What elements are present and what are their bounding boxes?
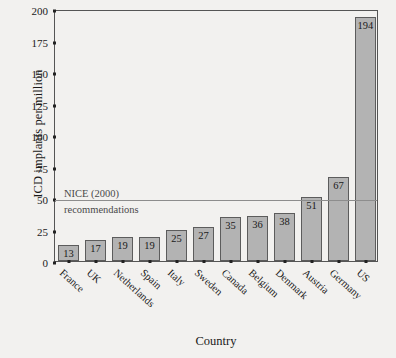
bar-value-label: 194 [356,20,376,31]
x-axis-tick-mark [175,260,178,263]
y-axis-tick-mark [53,167,56,170]
bar-value-label: 67 [329,180,349,191]
nice-recommendation-line: NICE (2000) recommendations [55,200,377,201]
bar: 27 [193,227,215,261]
nice-annotation-line2: recommendations [64,204,139,215]
x-axis-tick-mark [121,260,124,263]
y-axis-tick-mark [53,73,56,76]
x-axis-tick-mark [283,260,286,263]
y-axis-tick-mark [53,262,56,265]
y-axis-tick-label: 25 [37,226,48,237]
y-axis-tick-label: 0 [43,258,49,269]
bar: 35 [220,217,242,261]
icd-implants-bar-chart: ICD implants per million 025507510012515… [0,0,396,358]
y-axis-tick-label: 50 [37,195,48,206]
x-axis-title: Country [54,334,378,349]
y-axis-tick-label: 175 [32,37,49,48]
bar: 25 [166,230,188,262]
bar: 36 [247,216,269,261]
plot-area: 0255075100125150175200 13171919252735363… [54,10,378,262]
x-axis-tick-mark [337,260,340,263]
x-axis-tick-mark [94,260,97,263]
bar: 67 [328,177,350,261]
bar: 194 [355,17,377,261]
bar-value-label: 19 [140,240,160,251]
x-axis-tick-mark [67,260,70,263]
x-axis-tick-mark [202,260,205,263]
bar: 19 [139,237,161,261]
y-axis-tick-label: 200 [32,6,49,17]
x-axis-category-label: France [57,267,86,294]
bar-value-label: 17 [86,243,106,254]
y-axis-tick-mark [53,136,56,139]
y-axis-tick-mark [53,10,56,13]
x-axis-tick-mark [148,260,151,263]
x-axis-tick-mark [229,260,232,263]
y-axis-tick-label: 100 [32,132,49,143]
x-axis-category-label: Canada [219,267,250,296]
y-axis-tick-label: 150 [32,69,49,80]
bar: 13 [58,245,80,261]
y-axis-tick-mark [53,230,56,233]
bar-value-label: 13 [59,248,79,259]
x-axis-category-label: UK [84,267,103,285]
bar: 17 [85,240,107,261]
y-axis-tick-mark [53,104,56,107]
x-axis-category-label: Italy [165,267,187,288]
nice-annotation-line1: NICE (2000) [64,188,119,199]
x-axis-tick-mark [256,260,259,263]
bar: 51 [301,197,323,261]
x-axis-category-label: US [354,267,371,284]
bar-value-label: 25 [167,233,187,244]
x-axis-category-label: Sweden [192,267,224,297]
y-axis-tick-mark [53,41,56,44]
y-axis-tick-label: 125 [32,100,49,111]
bar-value-label: 27 [194,230,214,241]
y-axis-tick-label: 75 [37,163,48,174]
bar-value-label: 36 [248,219,268,230]
bar-value-label: 19 [113,240,133,251]
bar-value-label: 51 [302,200,322,211]
bar-value-label: 38 [275,216,295,227]
x-axis-tick-mark [310,260,313,263]
x-axis-tick-mark [364,260,367,263]
bar: 19 [112,237,134,261]
bar-value-label: 35 [221,220,241,231]
bar: 38 [274,213,296,261]
